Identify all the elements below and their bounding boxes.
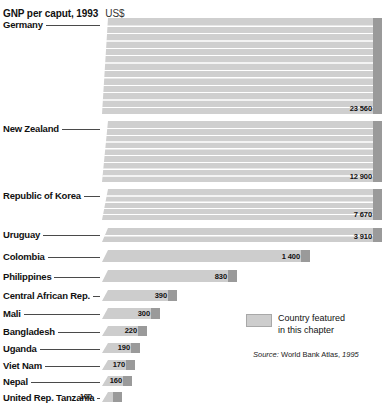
- bar-republic-of-korea: [102, 189, 382, 220]
- bar-end-cap: [301, 250, 310, 262]
- bar-end-cap: [373, 189, 382, 220]
- bar-end-cap: [113, 392, 122, 402]
- leader-line-uruguay: [43, 235, 100, 236]
- bar-stripe: [102, 162, 382, 164]
- source-lead: Source:: [253, 350, 279, 359]
- source-note: Source: World Bank Atlas, 1995: [253, 350, 359, 359]
- leader-line-united-rep-tanzania: [97, 398, 100, 399]
- value-label-germany: 23 560: [350, 105, 372, 113]
- bar-stripe: [102, 168, 382, 170]
- bar-end-cap: [373, 228, 382, 242]
- legend-line-2: in this chapter: [278, 324, 345, 336]
- bar-stripe: [102, 33, 382, 35]
- bar-end-cap: [168, 290, 177, 301]
- leader-line-viet-nam: [45, 366, 100, 367]
- bar-end-cap: [228, 270, 237, 282]
- bar-stripe: [102, 141, 382, 143]
- category-label-uganda: Uganda: [3, 344, 37, 354]
- leader-line-bangladesh: [58, 332, 100, 333]
- category-label-republic-of-korea: Republic of Korea: [3, 191, 81, 201]
- value-label-new-zealand: 12 900: [350, 173, 372, 181]
- leader-line-uganda: [40, 349, 100, 350]
- featured-country-swatch: [246, 314, 272, 327]
- category-label-germany: Germany: [3, 20, 43, 30]
- bar-stripe: [102, 214, 382, 216]
- source-text: World Bank Atlas,: [281, 350, 340, 359]
- bar-uruguay: [102, 228, 382, 242]
- leader-line-nepal: [31, 382, 100, 383]
- value-label-uganda: 190: [118, 344, 130, 352]
- value-label-central-african-rep: 390: [155, 292, 167, 300]
- bar-stripe: [102, 128, 382, 130]
- bar-end-cap: [138, 326, 147, 336]
- bar-end-cap: [151, 308, 160, 319]
- value-label-bangladesh: 220: [125, 327, 137, 335]
- bar-end-cap: [131, 343, 140, 353]
- bar-stripe: [102, 70, 382, 72]
- value-label-philippines: 830: [215, 273, 227, 281]
- bar-stripe: [102, 92, 382, 94]
- value-label-viet-nam: 170: [113, 361, 125, 369]
- bar-united-rep-tanzania: [102, 392, 122, 402]
- category-label-central-african-rep: Central African Rep.: [3, 291, 90, 301]
- value-label-united-rep-tanzania: 100: [80, 393, 92, 401]
- value-label-colombia: 1 400: [282, 253, 300, 261]
- leader-line-mali: [24, 314, 100, 315]
- bar-stripe: [102, 175, 382, 177]
- bar-end-cap: [123, 376, 132, 386]
- leader-line-new-zealand: [62, 129, 100, 130]
- bar-stripe: [102, 77, 382, 79]
- value-label-mali: 300: [138, 310, 150, 318]
- bar-face: [102, 189, 382, 220]
- bar-stripe: [102, 201, 382, 203]
- bar-end-cap: [373, 18, 382, 114]
- bar-new-zealand: [102, 121, 382, 182]
- value-label-republic-of-korea: 7 670: [354, 211, 372, 219]
- bar-stripe: [102, 40, 382, 42]
- bar-stripe: [102, 235, 382, 237]
- value-label-nepal: 160: [110, 377, 122, 385]
- bar-mali: [102, 308, 160, 319]
- bar-stripe: [102, 85, 382, 87]
- category-label-nepal: Nepal: [3, 377, 28, 387]
- bar-stripe: [102, 62, 382, 64]
- leader-line-republic-of-korea: [84, 196, 100, 197]
- legend-label: Country featured in this chapter: [278, 312, 345, 336]
- bar-stripe: [102, 208, 382, 210]
- category-label-bangladesh: Bangladesh: [3, 327, 55, 337]
- bar-stripe: [102, 155, 382, 157]
- bar-stripe: [102, 25, 382, 27]
- category-label-mali: Mali: [3, 309, 21, 319]
- bar-colombia: [102, 250, 310, 262]
- bar-stripe: [102, 48, 382, 50]
- value-label-uruguay: 3 910: [354, 233, 372, 241]
- bar-stripe: [102, 99, 382, 101]
- category-label-viet-nam: Viet Nam: [3, 361, 42, 371]
- category-label-colombia: Colombia: [3, 252, 45, 262]
- leader-line-central-african-rep: [93, 296, 100, 297]
- bar-face: [102, 250, 310, 262]
- leader-line-philippines: [54, 277, 100, 278]
- leader-line-colombia: [48, 257, 100, 258]
- category-label-uruguay: Uruguay: [3, 230, 40, 240]
- category-label-new-zealand: New Zealand: [3, 124, 59, 134]
- bar-face: [102, 121, 382, 182]
- bar-end-cap: [373, 121, 382, 182]
- bar-stripe: [102, 55, 382, 57]
- leader-line-germany: [46, 25, 100, 26]
- bar-end-cap: [126, 360, 135, 370]
- legend-line-1: Country featured: [278, 312, 345, 324]
- bar-stripe: [102, 148, 382, 150]
- bar-germany: [102, 18, 382, 114]
- plot-area: Germany23 560New Zealand12 900Republic o…: [0, 16, 388, 397]
- bar-stripe: [102, 195, 382, 197]
- source-year: 1995: [342, 350, 359, 359]
- bar-stripe: [102, 135, 382, 137]
- bar-stripe: [102, 107, 382, 109]
- category-label-philippines: Philippines: [3, 272, 51, 282]
